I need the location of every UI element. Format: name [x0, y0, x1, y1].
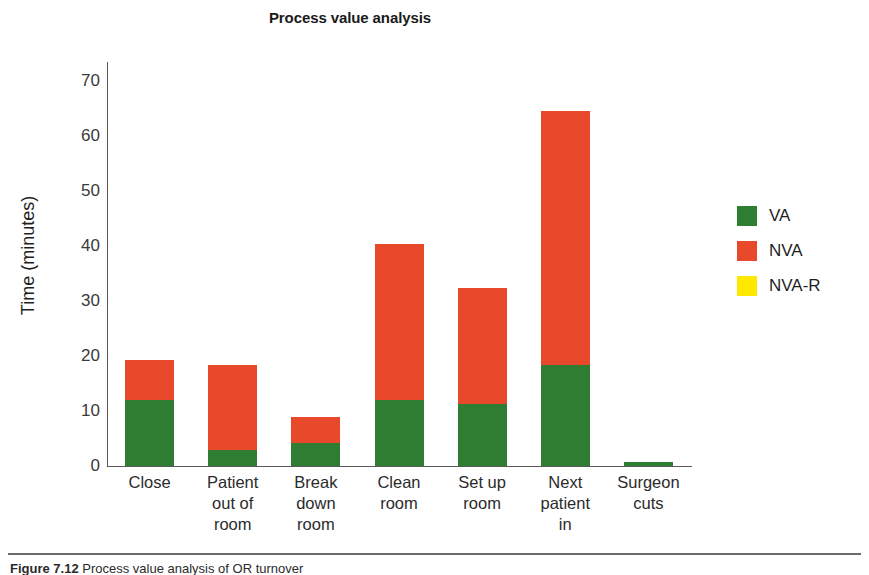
- bar-column: [291, 417, 340, 466]
- bar-segment-va: [375, 400, 424, 467]
- bar-segment-nva: [291, 417, 340, 444]
- x-axis-label: Break down room: [274, 472, 357, 535]
- legend-swatch-icon: [737, 241, 757, 261]
- y-axis-tick-50: 50: [60, 181, 100, 201]
- chart-legend: VANVANVA-R: [737, 198, 821, 303]
- bar-segment-va: [125, 400, 174, 466]
- bar-segment-va: [208, 450, 257, 466]
- figure-caption-label: Figure 7.12: [10, 561, 79, 575]
- bar-column: [375, 244, 424, 466]
- legend-label: NVA: [769, 241, 803, 261]
- legend-label: NVA-R: [769, 276, 821, 296]
- x-axis-label: Next patient in: [524, 472, 607, 535]
- figure-container: Process value analysis Time (minutes) 01…: [0, 0, 869, 575]
- caption-divider: [8, 553, 861, 555]
- x-axis-label: Clean room: [357, 472, 440, 514]
- x-axis-label: Set up room: [441, 472, 524, 514]
- bar-segment-nva: [208, 365, 257, 449]
- legend-item-nva-r[interactable]: NVA-R: [737, 268, 821, 303]
- y-axis-title: Time (minutes): [18, 106, 39, 406]
- bar-column: [125, 360, 174, 466]
- legend-item-va[interactable]: VA: [737, 198, 821, 233]
- legend-swatch-icon: [737, 276, 757, 296]
- legend-item-nva[interactable]: NVA: [737, 233, 821, 268]
- y-axis-tick-20: 20: [60, 346, 100, 366]
- bar-column: [541, 111, 590, 466]
- bar-segment-nva: [125, 360, 174, 400]
- bar-column: [458, 288, 507, 466]
- bar-segment-va: [541, 365, 590, 466]
- bar-segment-va: [458, 404, 507, 466]
- x-axis-line: [107, 466, 692, 467]
- y-axis-tick-30: 30: [60, 291, 100, 311]
- y-axis-tick-40: 40: [60, 236, 100, 256]
- bar-segment-nva: [375, 244, 424, 400]
- bar-segment-nva: [458, 288, 507, 403]
- bar-segment-va: [291, 443, 340, 466]
- figure-caption-text: Process value analysis of OR turnover: [82, 561, 303, 575]
- bar-column: [208, 365, 257, 466]
- y-axis-tick-70: 70: [60, 71, 100, 91]
- y-axis-tick-10: 10: [60, 401, 100, 421]
- legend-label: VA: [769, 206, 790, 226]
- y-axis-tick-0: 0: [60, 456, 100, 476]
- x-axis-label: Patient out of room: [191, 472, 274, 535]
- bar-segment-va: [624, 462, 673, 466]
- x-axis-label: Surgeon cuts: [607, 472, 690, 514]
- x-axis-label: Close: [108, 472, 191, 493]
- bar-segment-nva: [541, 111, 590, 365]
- legend-swatch-icon: [737, 206, 757, 226]
- y-axis-tick-60: 60: [60, 126, 100, 146]
- figure-caption: Figure 7.12 Process value analysis of OR…: [10, 561, 850, 575]
- plot-area: [108, 62, 690, 466]
- chart-title: Process value analysis: [0, 9, 700, 26]
- bar-column: [624, 462, 673, 466]
